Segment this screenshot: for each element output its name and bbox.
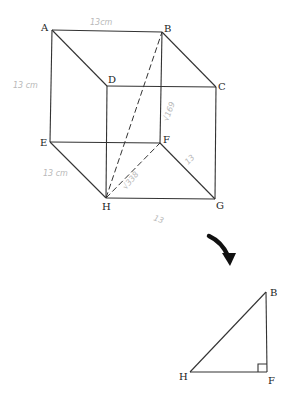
curved-arrow-down-icon	[209, 236, 236, 266]
vertex-label-g: G	[216, 200, 224, 211]
edge-fg	[160, 143, 215, 199]
handwritten-annotations: 13cm 13 cm 13 cm √169 √338 13 13	[13, 18, 197, 225]
edge-bf	[160, 32, 162, 143]
annotation-ab: 13cm	[90, 18, 113, 27]
edge-ad	[52, 30, 107, 86]
edge-cg	[215, 87, 216, 199]
triangle-edge-hb	[190, 292, 266, 372]
right-angle-marker	[258, 364, 267, 372]
annotation-eh: 13 cm	[43, 169, 68, 178]
annotation-fg: 13	[183, 153, 197, 167]
vertex-label-d: D	[108, 74, 116, 85]
edge-bc	[162, 32, 216, 87]
edge-hg	[106, 198, 215, 199]
vertex-label-e: E	[40, 137, 47, 148]
vertex-label-b: B	[164, 23, 171, 34]
annotation-ae: 13 cm	[13, 81, 38, 90]
annotation-bf: √169	[161, 100, 176, 122]
triangle-edge-bf	[266, 292, 267, 372]
triangle-label-b: B	[270, 287, 277, 298]
vertex-label-c: C	[218, 81, 226, 92]
edge-ae	[50, 30, 52, 142]
triangle-label-h: H	[179, 371, 188, 382]
vertex-label-h: H	[102, 201, 111, 212]
edge-ef	[50, 142, 160, 143]
triangle-label-f: F	[268, 375, 275, 386]
vertex-label-f: F	[163, 134, 170, 145]
cube-diagram: A B C D E F G H 13cm 13 cm 13 cm √169 √3…	[0, 0, 291, 402]
edge-ab	[52, 30, 162, 32]
annotation-hf: √338	[121, 170, 141, 191]
annotation-hg: 13	[152, 213, 165, 225]
right-triangle-hfb: B H F	[179, 287, 277, 386]
vertex-label-a: A	[40, 22, 49, 33]
